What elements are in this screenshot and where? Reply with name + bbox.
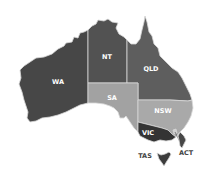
label-sa: SA (107, 94, 117, 102)
label-qld: QLD (143, 65, 159, 73)
region-wa[interactable] (19, 30, 88, 122)
label-nt: NT (102, 53, 112, 61)
region-sa[interactable] (88, 83, 138, 132)
region-nsw-south-coast (178, 132, 186, 148)
label-vic: VIC (142, 129, 154, 137)
region-tas[interactable] (157, 152, 171, 166)
region-act[interactable] (173, 129, 177, 134)
australia-map: WA NT QLD SA NSW VIC ACT TAS (0, 0, 206, 173)
label-nsw: NSW (154, 107, 171, 115)
label-act: ACT (179, 149, 194, 157)
region-nt[interactable] (88, 19, 127, 83)
label-tas: TAS (138, 152, 152, 160)
label-wa: WA (52, 78, 64, 86)
